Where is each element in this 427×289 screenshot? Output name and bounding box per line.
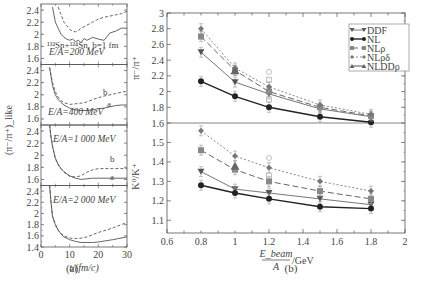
y-tick-label: 1.3 <box>152 176 165 187</box>
figure: 1.61.822.22.4E/A=200 MeV1.61.822.22.4E/A… <box>0 0 427 289</box>
curve-b <box>50 68 127 105</box>
x-tick-label: 0 <box>39 249 44 260</box>
y-tick-label: 2 <box>34 29 39 40</box>
y-tick-label: 2.4 <box>27 5 40 16</box>
y-tick-label: 2 <box>34 150 39 161</box>
y-axis-label: K⁰/K⁺ <box>130 163 141 190</box>
x-tick-label: 1.4 <box>297 236 310 247</box>
y-tick-label: 3 <box>159 8 164 19</box>
x-tick-label: 1 <box>233 236 238 247</box>
y-tick-label: 1.8 <box>152 102 165 113</box>
curve-label-a: a <box>107 99 111 109</box>
x-tick-label: 0.6 <box>161 236 174 247</box>
x-tick-label: 2 <box>403 236 408 247</box>
x-tick-label: 30 <box>122 249 132 260</box>
y-tick-label: 2 <box>34 89 39 100</box>
y-tick-label: 2.2 <box>27 197 40 208</box>
curve-a <box>50 68 127 111</box>
series-line-DDF <box>201 172 371 205</box>
curve-b <box>50 186 127 239</box>
series-line-DDF <box>201 52 371 116</box>
panel-a-subplot-2: 1.61.822.22.4E/A=400 MeV <box>27 65 128 126</box>
y-tick-label: 2 <box>159 86 164 97</box>
curve-a <box>53 7 128 43</box>
panel-b-label: (b) <box>285 262 298 275</box>
y-tick-label: 2.4 <box>27 65 40 76</box>
y-tick-label: 1.8 <box>27 101 40 112</box>
energy-label: E/A=1 000 MeV <box>52 134 117 144</box>
reaction-annotation: ¹³²Sn+¹²⁴Sn, b=1 fm <box>47 40 119 50</box>
x-tick-label: 10 <box>65 249 75 260</box>
y-tick-label: 2.6 <box>152 39 165 50</box>
y-tick-label: 1.5 <box>152 137 165 148</box>
x-tick-label: 1.6 <box>331 236 344 247</box>
y-axis-label: (π⁻/π⁺)_like <box>3 104 15 155</box>
panel-a-subplot-1: 1.61.822.22.4E/A=200 MeV <box>27 4 128 65</box>
y-tick-label: 1.8 <box>27 41 40 52</box>
energy-label: E/A=400 MeV <box>47 107 104 117</box>
curve-label-a: a <box>110 172 114 182</box>
kaon-ratio-subplot: 1.11.21.31.41.5K⁰/K⁺ <box>130 126 405 226</box>
y-tick-label: 2.4 <box>152 55 165 66</box>
energy-label: E/A=2 000 MeV <box>52 195 117 205</box>
y-tick-label: 2.4 <box>27 186 40 197</box>
y-tick-label: 2 <box>34 208 39 219</box>
x-tick-label: 0.8 <box>195 236 208 247</box>
y-tick-label: 1.4 <box>152 156 165 167</box>
curve-b <box>58 7 127 32</box>
y-tick-label: 2.2 <box>27 77 40 88</box>
y-tick-label: 1.4 <box>27 242 40 253</box>
y-tick-label: 2.2 <box>27 17 40 28</box>
panel-b-ratio-plot: 1.61.822.22.42.62.83π⁻/π⁺1.11.21.31.41.5… <box>130 8 409 273</box>
x-tick-label: 1.2 <box>263 236 276 247</box>
y-tick-label: 2.2 <box>152 70 165 81</box>
y-tick-label: 2.2 <box>27 138 40 149</box>
x-axis-label-numerator: E_beam <box>259 248 293 259</box>
panel-a-subplot-4: 1.41.61.822.22.4E/A=2 000 MeV <box>27 186 128 253</box>
series-line-NLρ <box>201 37 371 116</box>
curve-b <box>50 125 127 177</box>
y-tick-label: 1.1 <box>152 215 165 226</box>
panel-a-time-evolution-plot: 1.61.822.22.4E/A=200 MeV1.61.822.22.4E/A… <box>3 4 132 274</box>
curve-label-b: b <box>110 154 115 164</box>
series-line-NL <box>201 185 371 208</box>
legend: DDFNLNLρNLρδNLDDρ <box>349 24 409 72</box>
x-tick-label: 20 <box>93 249 103 260</box>
y-tick-label: 2.4 <box>27 126 40 137</box>
y-tick-label: 1.2 <box>152 195 165 206</box>
y-tick-label: 1.6 <box>27 113 40 124</box>
x-axis-label-denominator: A <box>272 261 280 272</box>
y-tick-label: 1.6 <box>27 230 40 241</box>
panel-a-label: (a) <box>66 262 79 275</box>
y-tick-label: 1.6 <box>152 118 165 129</box>
y-tick-label: 2.8 <box>152 23 165 34</box>
series-line-NLρδ <box>201 131 371 191</box>
legend-label: NLDDρ <box>367 61 400 72</box>
series-line-NLρδ <box>201 29 371 115</box>
y-tick-label: 1.8 <box>27 219 40 230</box>
y-axis-label: π⁻/π⁺ <box>130 56 141 79</box>
y-tick-label: 1.6 <box>27 53 40 64</box>
x-tick-label: 1.8 <box>365 236 378 247</box>
y-tick-label: 1.8 <box>27 162 40 173</box>
series-line-NL <box>201 81 371 122</box>
curve-label-b: b <box>103 87 108 97</box>
y-tick-label: 1.6 <box>27 174 40 185</box>
figure-canvas: 1.61.822.22.4E/A=200 MeV1.61.822.22.4E/A… <box>0 0 427 289</box>
